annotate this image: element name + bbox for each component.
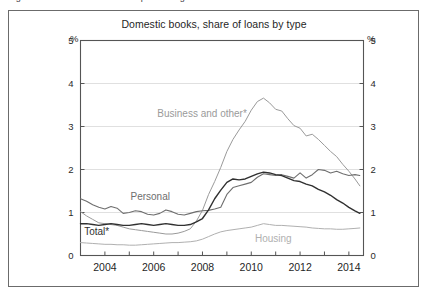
x-tick-label: 2012 [288, 261, 312, 273]
series-line-personal [81, 170, 360, 216]
y-tick-label-right: 5 [371, 35, 376, 46]
series-label-business-and-other: Business and other* [157, 108, 247, 119]
y-tick-label-left: 3 [68, 121, 73, 132]
y-tick-label-right: 0 [371, 250, 376, 261]
x-tick-label: 2008 [191, 261, 215, 273]
line-chart-svg: 001122334455200420062008201020122014Busi… [0, 0, 428, 291]
x-tick-label: 2010 [240, 261, 264, 273]
y-tick-label-right: 1 [371, 207, 376, 218]
x-tick-label: 2004 [93, 261, 117, 273]
series-line-total [81, 172, 360, 225]
series-label-housing: Housing [255, 233, 292, 244]
y-tick-label-right: 4 [371, 78, 376, 89]
x-tick-label: 2014 [337, 261, 361, 273]
y-tick-label-right: 2 [371, 164, 376, 175]
y-tick-label-left: 4 [68, 78, 73, 89]
y-tick-label-left: 5 [68, 35, 73, 46]
plot-frame [81, 41, 364, 256]
series-label-total: Total* [84, 226, 109, 237]
y-tick-label-right: 3 [371, 121, 376, 132]
series-label-personal: Personal [131, 191, 170, 202]
chart-plot-area: 001122334455200420062008201020122014Busi… [0, 0, 428, 291]
y-tick-label-left: 1 [68, 207, 73, 218]
y-tick-label-left: 0 [68, 250, 73, 261]
y-tick-label-left: 2 [68, 164, 73, 175]
x-tick-label: 2006 [142, 261, 166, 273]
